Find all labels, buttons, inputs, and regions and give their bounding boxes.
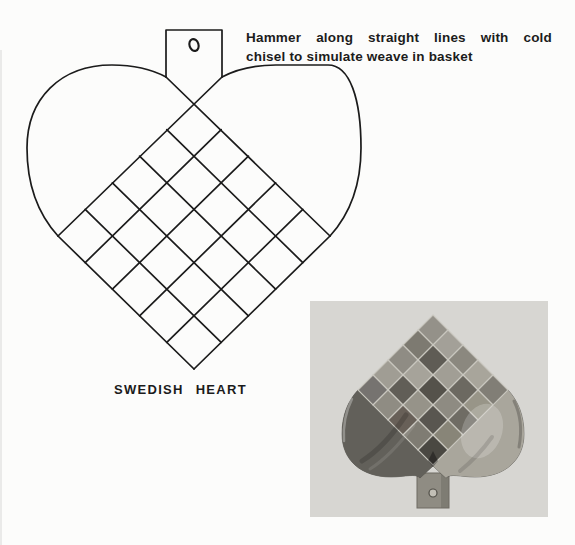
grid-line [112, 156, 248, 289]
grid-line [85, 130, 221, 263]
finished-heart-photo [310, 301, 548, 517]
grid-line [140, 156, 276, 289]
grid-line [112, 183, 248, 316]
grid-line [85, 209, 221, 342]
diagram-caption: SWEDISH HEART [114, 382, 247, 397]
weave-grid [58, 77, 330, 369]
grid-line [140, 183, 276, 316]
tab-outline [166, 30, 222, 77]
heart-bottom-edge [58, 236, 194, 369]
grid-line [167, 130, 303, 263]
rivet-icon [429, 489, 437, 497]
tab-hole-icon [188, 38, 200, 52]
metal-tab [417, 473, 449, 508]
grid-line [167, 209, 303, 342]
book-page: Hammer along straight lines with cold ch… [0, 0, 575, 545]
